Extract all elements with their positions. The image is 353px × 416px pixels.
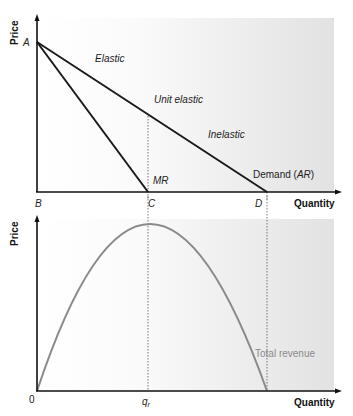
total-revenue-chart: Price Total revenue 0 qr Quantity [9,196,342,408]
unit-elastic-label: Unit elastic [154,94,203,105]
top-y-axis-label: Price [9,20,20,45]
bottom-chart-background [37,219,334,391]
demand-ar-label: Demand (AR) [253,169,314,180]
point-b-label: B [35,198,42,209]
bottom-x-axis-arrow-icon [335,389,342,394]
bottom-x-axis-label: Quantity [294,397,335,408]
mr-label: MR [153,175,169,186]
point-d-label: D [255,198,262,209]
top-chart-background [37,18,334,192]
bottom-y-axis-arrow-icon [35,215,40,222]
total-revenue-label: Total revenue [255,348,315,359]
inelastic-label: Inelastic [208,129,245,140]
qr-label: qr [142,396,151,408]
bottom-y-axis-label: Price [9,221,20,246]
origin-label: 0 [29,394,35,405]
top-x-axis-arrow-icon [335,190,342,195]
elastic-label: Elastic [95,53,124,64]
point-c-label: C [148,198,156,209]
top-y-axis-arrow-icon [35,14,40,21]
top-x-axis-label: Quantity [294,198,335,209]
point-a-label: A [22,37,30,48]
demand-chart: Price A Elastic Unit elastic Inelastic M… [9,14,342,209]
revenue-elasticity-figure: Price A Elastic Unit elastic Inelastic M… [0,0,353,416]
